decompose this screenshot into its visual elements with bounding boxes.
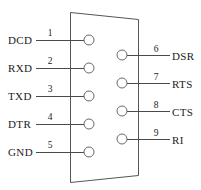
db9-shell-outline [71, 13, 139, 183]
signal-label-rxd: RXD [8, 62, 32, 74]
pin-number-3: 3 [48, 84, 53, 94]
pin-number-9: 9 [154, 128, 159, 138]
right-pin-numbers: 6 7 8 9 [154, 44, 159, 138]
pin-circle-9 [117, 134, 127, 144]
right-pin-circles [117, 50, 127, 144]
signal-label-gnd: GND [8, 146, 33, 158]
pin-number-4: 4 [48, 112, 53, 122]
left-signal-labels: DCD RXD TXD DTR GND [8, 34, 33, 158]
signal-label-dcd: DCD [8, 34, 32, 46]
left-leader-lines [36, 41, 84, 153]
pin-circle-7 [117, 78, 127, 88]
signal-label-cts: CTS [172, 106, 193, 118]
left-pin-numbers: 1 2 3 4 5 [48, 28, 53, 150]
signal-label-dsr: DSR [172, 50, 195, 62]
pin-circle-6 [117, 50, 127, 60]
pin-circle-2 [84, 63, 94, 73]
pinout-drawing: 1 2 3 4 5 6 7 8 9 DCD RXD TXD DTR GND DS… [0, 0, 201, 190]
left-pin-circles [84, 35, 94, 157]
pin-number-7: 7 [154, 72, 159, 82]
pin-number-5: 5 [48, 140, 53, 150]
db9-pinout-diagram: 1 2 3 4 5 6 7 8 9 DCD RXD TXD DTR GND DS… [0, 0, 201, 190]
pin-number-8: 8 [154, 100, 159, 110]
pin-circle-5 [84, 147, 94, 157]
pin-circle-4 [84, 119, 94, 129]
pin-circle-1 [84, 35, 94, 45]
pin-circle-8 [117, 106, 127, 116]
signal-label-dtr: DTR [8, 118, 31, 130]
right-signal-labels: DSR RTS CTS RI [172, 50, 195, 146]
signal-label-txd: TXD [8, 90, 32, 102]
pin-number-2: 2 [48, 56, 53, 66]
pin-number-6: 6 [154, 44, 159, 54]
pin-circle-3 [84, 91, 94, 101]
pin-number-1: 1 [48, 28, 53, 38]
right-leader-lines [127, 56, 170, 140]
signal-label-ri: RI [172, 134, 184, 146]
signal-label-rts: RTS [172, 78, 193, 90]
